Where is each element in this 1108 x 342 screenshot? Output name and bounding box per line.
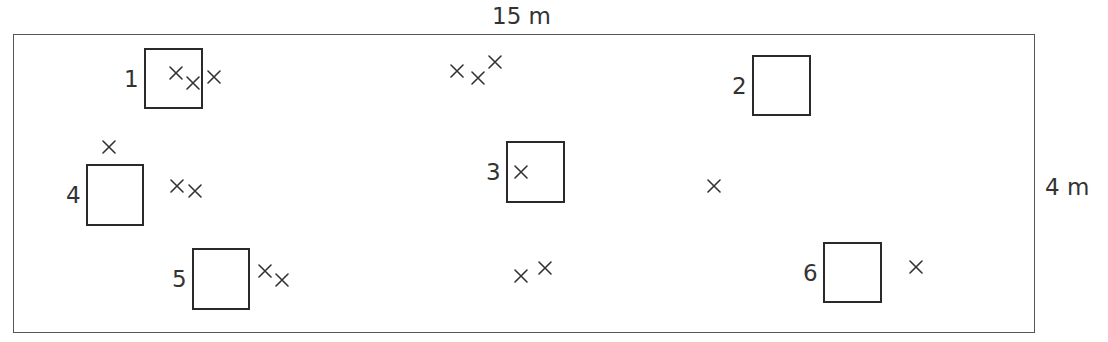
cross-mark-icon bbox=[538, 261, 552, 275]
cross-mark-icon bbox=[186, 76, 200, 90]
cross-mark-icon bbox=[514, 165, 528, 179]
cross-mark-icon bbox=[488, 55, 502, 69]
quadrat-label-6: 6 bbox=[803, 262, 818, 285]
quadrat-sampling-diagram: 15 m 4 m 123456 bbox=[0, 0, 1108, 342]
cross-mark-icon bbox=[102, 140, 116, 154]
cross-mark-icon bbox=[275, 273, 289, 287]
cross-mark-icon bbox=[471, 71, 485, 85]
field-width-label: 15 m bbox=[492, 5, 551, 28]
cross-mark-icon bbox=[207, 70, 221, 84]
quadrat-label-4: 4 bbox=[66, 184, 81, 207]
cross-mark-icon bbox=[450, 64, 464, 78]
cross-mark-icon bbox=[170, 179, 184, 193]
quadrat-2 bbox=[752, 55, 811, 116]
field-height-label: 4 m bbox=[1045, 176, 1089, 199]
quadrat-label-5: 5 bbox=[172, 268, 187, 291]
quadrat-label-3: 3 bbox=[486, 161, 501, 184]
cross-mark-icon bbox=[514, 269, 528, 283]
cross-mark-icon bbox=[707, 179, 721, 193]
cross-mark-icon bbox=[169, 66, 183, 80]
quadrat-4 bbox=[86, 164, 144, 226]
quadrat-label-2: 2 bbox=[732, 75, 747, 98]
quadrat-label-1: 1 bbox=[124, 68, 139, 91]
cross-mark-icon bbox=[188, 184, 202, 198]
cross-mark-icon bbox=[909, 260, 923, 274]
quadrat-6 bbox=[823, 242, 882, 303]
quadrat-5 bbox=[192, 248, 250, 310]
cross-mark-icon bbox=[258, 264, 272, 278]
